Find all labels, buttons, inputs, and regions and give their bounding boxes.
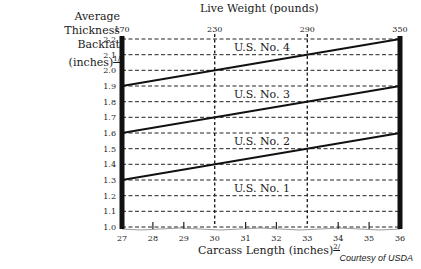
y-tick-1.2: 1.2 (103, 192, 116, 201)
x-tick-31: 31 (241, 234, 251, 243)
y-tick-1.4: 1.4 (103, 160, 116, 169)
footnote-2: 2/ (333, 243, 340, 251)
x-axis-title-text: Carcass Length (inches) (198, 244, 333, 257)
baseline (122, 228, 400, 230)
weight-tick-170: 170 (114, 25, 129, 34)
credit-text: Courtesy of USDA (339, 253, 413, 263)
y-tick-1.1: 1.1 (103, 207, 116, 216)
y-tick-1.5: 1.5 (103, 145, 116, 154)
y-tick-1.7: 1.7 (103, 113, 116, 122)
x-tick-28: 28 (148, 234, 158, 243)
x-tick-36: 36 (395, 234, 405, 243)
region-label-no2: U.S. No. 2 (234, 135, 290, 148)
x-tick-32: 32 (271, 234, 281, 243)
chart-plot: U.S. No. 4 U.S. No. 3 U.S. No. 2 U.S. No… (0, 0, 421, 269)
y-tick-1.6: 1.6 (103, 129, 116, 138)
grade-boundary-lines (122, 39, 400, 180)
region-label-no4: U.S. No. 4 (234, 41, 290, 54)
y-tick-1.3: 1.3 (103, 176, 116, 185)
y-tick-1.9: 1.9 (103, 82, 116, 91)
y-tick-2.2: 2.2 (103, 35, 116, 44)
weight-tick-230: 230 (207, 25, 222, 34)
x-tick-35: 35 (364, 234, 374, 243)
region-label-no1: U.S. No. 1 (234, 182, 290, 195)
x-tick-30: 30 (210, 234, 220, 243)
x-axis-title: Carcass Length (inches)2/ (198, 243, 340, 257)
y-tick-2.1: 2.1 (103, 51, 116, 60)
y-tick-2.0: 2.0 (103, 66, 116, 75)
x-tick-29: 29 (179, 234, 189, 243)
x-tick-33: 33 (302, 234, 312, 243)
x-tick-27: 27 (117, 234, 127, 243)
horizontal-gridlines (122, 39, 400, 227)
region-label-no3: U.S. No. 3 (234, 88, 290, 101)
x-tick-34: 34 (333, 234, 343, 243)
y-tick-1.0: 1.0 (103, 223, 116, 232)
weight-tick-290: 290 (300, 25, 315, 34)
weight-tick-350: 350 (392, 25, 407, 34)
y-tick-1.8: 1.8 (103, 98, 116, 107)
